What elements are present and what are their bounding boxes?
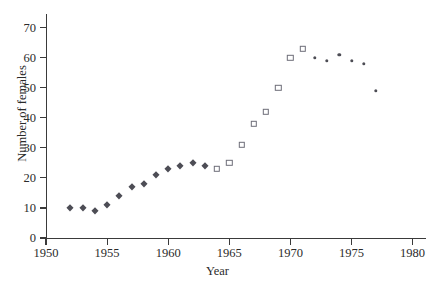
data-point-marker — [287, 54, 293, 60]
data-point-marker — [275, 85, 281, 91]
data-point-marker — [214, 166, 220, 172]
x-axis-tick — [168, 239, 169, 245]
x-axis-tick — [45, 239, 46, 245]
x-axis-label: Year — [0, 264, 435, 279]
data-point-marker — [251, 121, 257, 127]
y-axis-label: Number of females — [15, 44, 30, 184]
data-point-marker — [226, 160, 232, 166]
data-point-marker — [299, 45, 305, 51]
x-axis-tick-label: 1965 — [204, 247, 254, 259]
x-axis-tick-label: 1960 — [143, 247, 193, 259]
x-axis-tick — [229, 239, 230, 245]
x-axis-tick-label: 1975 — [327, 247, 377, 259]
data-point-marker — [238, 142, 244, 148]
y-axis-tick-label: 0 — [2, 232, 36, 244]
x-axis-tick-label: 1950 — [21, 247, 71, 259]
x-axis-tick — [290, 239, 291, 245]
scatter-chart-figure: 010203040506070 195019551960196519701975… — [0, 0, 435, 284]
y-axis-tick-label: 10 — [2, 202, 36, 214]
x-axis-tick-label: 1955 — [82, 247, 132, 259]
x-axis-tick — [412, 239, 413, 245]
y-axis-tick-label: 70 — [2, 22, 36, 34]
x-axis-tick — [351, 239, 352, 245]
x-axis-tick — [107, 239, 108, 245]
x-axis-tick-label: 1970 — [265, 247, 315, 259]
x-axis-tick-label: 1980 — [388, 247, 435, 259]
data-point-marker — [263, 109, 269, 115]
